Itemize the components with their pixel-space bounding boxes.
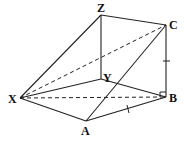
- dashed-edge-xc: [20, 25, 166, 98]
- edge-zc: [101, 15, 166, 25]
- prism-diagram: Z C Y X B A: [0, 0, 184, 146]
- vertex-label-y: Y: [103, 71, 112, 85]
- edge-zx: [20, 15, 101, 98]
- dashed-edges: [20, 25, 166, 98]
- edge-xa: [20, 98, 86, 121]
- edge-ab: [86, 97, 166, 121]
- vertex-label-z: Z: [97, 1, 105, 15]
- edges: [20, 15, 166, 121]
- annotation-marks: [127, 61, 170, 113]
- vertex-label-x: X: [8, 92, 17, 106]
- vertex-label-b: B: [169, 91, 177, 105]
- dashed-edge-xb: [20, 97, 166, 98]
- edge-xy: [20, 79, 101, 98]
- vertex-label-c: C: [169, 18, 178, 32]
- vertex-label-a: A: [81, 124, 90, 138]
- edge-ca: [86, 25, 166, 121]
